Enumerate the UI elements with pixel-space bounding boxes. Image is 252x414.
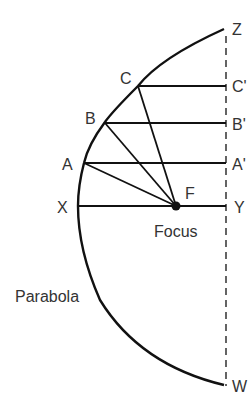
ray-b-focus bbox=[105, 123, 176, 206]
parabola-curve bbox=[78, 29, 224, 385]
ray-a-focus bbox=[84, 163, 176, 206]
ray-c-focus bbox=[138, 86, 176, 206]
label-f: F bbox=[185, 185, 195, 202]
label-c: C bbox=[120, 70, 132, 87]
label-x: X bbox=[57, 199, 68, 216]
label-b: B bbox=[85, 110, 96, 127]
label-b-prime: B' bbox=[232, 116, 246, 133]
parabola-diagram: Z C C' B B' A A' X Y F Focus Parabola W bbox=[0, 0, 252, 414]
label-parabola: Parabola bbox=[15, 288, 79, 305]
label-a-prime: A' bbox=[232, 156, 246, 173]
label-y: Y bbox=[234, 199, 245, 216]
label-w: W bbox=[232, 378, 248, 395]
focus-point bbox=[172, 202, 181, 211]
label-z: Z bbox=[232, 21, 242, 38]
label-c-prime: C' bbox=[232, 78, 247, 95]
label-focus: Focus bbox=[154, 223, 198, 240]
label-a: A bbox=[62, 156, 73, 173]
